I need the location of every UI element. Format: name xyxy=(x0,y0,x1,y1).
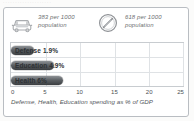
gridline-10 xyxy=(80,43,81,86)
car-icon xyxy=(10,12,34,34)
bar-label-education: Education 4.9% xyxy=(15,61,64,70)
x-tick-5: 5 xyxy=(43,88,46,97)
x-tick-0: 0 xyxy=(11,88,14,97)
statistics-row: 383 per 1000 population 618 per 1000 pop… xyxy=(4,10,188,42)
gridline-20 xyxy=(149,43,150,86)
infographic-panel: · · · · · · · · · · · · · · · · · · · · xyxy=(0,0,194,121)
plot-area: Defense 1.9% Education 4.9% Health 6% xyxy=(10,42,184,87)
gridline-25 xyxy=(183,43,184,86)
gridline-15 xyxy=(115,43,116,86)
rowline-1 xyxy=(11,57,184,58)
bar-chart: Defense 1.9% Education 4.9% Health 6% xyxy=(10,42,184,87)
chart-caption: Defense, Health, Education spending as %… xyxy=(11,98,153,105)
rowline-2 xyxy=(11,72,184,73)
statistic-cars: 383 per 1000 population xyxy=(10,12,75,34)
x-tick-20: 20 xyxy=(146,88,153,97)
x-tick-15: 15 xyxy=(111,88,118,97)
bar-label-defense: Defense 1.9% xyxy=(15,46,58,55)
statistic-cars-text: 383 per 1000 population xyxy=(38,12,75,29)
clipped-top-text: · · · · · · · · · · · · · · · · · · · · xyxy=(3,0,191,6)
bar-label-health: Health 6% xyxy=(15,76,47,85)
x-axis: 0 5 10 15 20 25 xyxy=(10,88,184,97)
stat-card: 383 per 1000 population 618 per 1000 pop… xyxy=(3,7,189,117)
x-tick-25: 25 xyxy=(177,88,184,97)
statistic-telephones: 618 per 1000 population xyxy=(97,12,162,34)
telephone-dial-icon xyxy=(97,12,121,34)
x-tick-10: 10 xyxy=(76,88,83,97)
statistic-telephones-text: 618 per 1000 population xyxy=(125,12,162,29)
